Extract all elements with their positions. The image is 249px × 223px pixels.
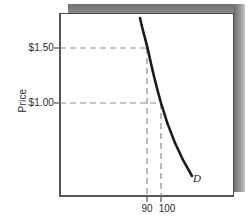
demand-curve-label: D bbox=[193, 172, 201, 184]
y-tick-label-150: $1.50 bbox=[12, 42, 54, 53]
demand-curve-figure: Price $1.50 $1.00 90 100 D bbox=[0, 0, 249, 223]
demand-curve-path bbox=[140, 18, 192, 176]
y-tick-label-100: $1.00 bbox=[12, 97, 54, 108]
x-tick-label-100: 100 bbox=[152, 203, 182, 214]
chart-vector-layer bbox=[0, 0, 249, 223]
